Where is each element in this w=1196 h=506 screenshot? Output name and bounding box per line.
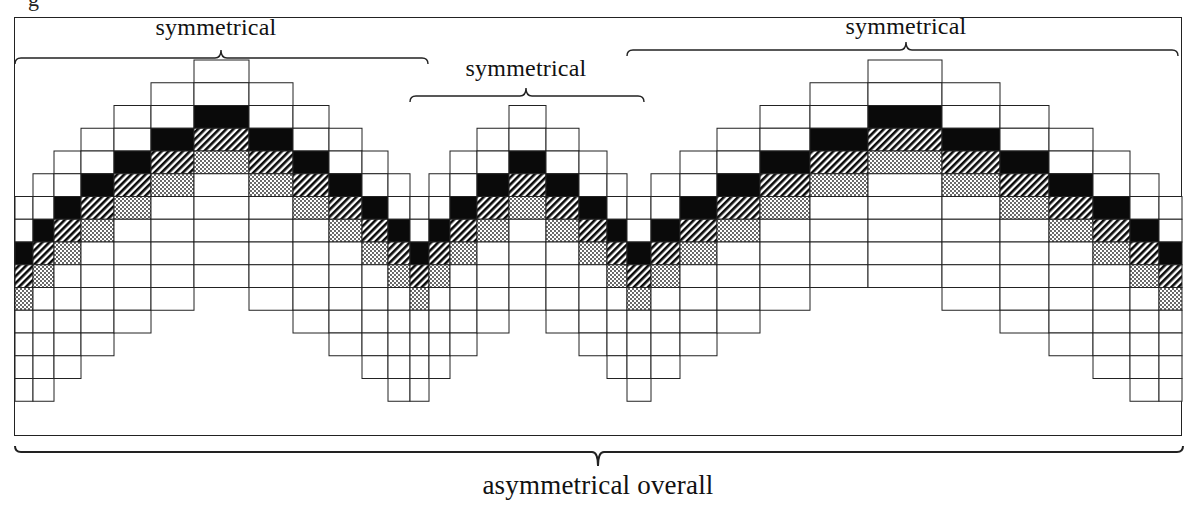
grid-cell-white [1093, 310, 1130, 333]
grid-cell-white [54, 151, 81, 174]
label-section-2: symmetrical [466, 55, 587, 82]
grid-cell-white [868, 83, 942, 106]
grid-cell-hatched [1130, 242, 1159, 265]
grid-cell-white [151, 265, 194, 288]
grid-cell-black [477, 174, 509, 197]
brace-section-3 [627, 42, 1178, 56]
grid-cell-white [114, 128, 151, 151]
grid-cell-white [868, 197, 942, 220]
grid-cell-black [450, 197, 477, 220]
grid-cell-dotted [1049, 219, 1093, 242]
grid-cell-white [760, 128, 810, 151]
grid-cell-white [293, 310, 329, 333]
grid-cell-white [546, 265, 579, 288]
grid-cell-dotted [627, 288, 651, 311]
grid-cell-white [579, 151, 607, 174]
grid-cell-white [81, 310, 114, 333]
grid-cell-black [868, 106, 942, 129]
grid-cell-white [194, 242, 249, 265]
grid-cell-white [1159, 356, 1182, 379]
grid-cell-white [194, 197, 249, 220]
grid-cell-white [546, 128, 579, 151]
grid-cell-hatched [1093, 219, 1130, 242]
grid-cell-white [54, 174, 81, 197]
grid-cell-white [810, 197, 868, 220]
grid-cell-black [1049, 174, 1093, 197]
grid-cell-black [388, 219, 410, 242]
grid-cell-white [810, 83, 868, 106]
grid-cell-white [717, 128, 760, 151]
grid-cell-dotted [114, 197, 151, 220]
grid-cell-white [1093, 288, 1130, 311]
grid-cell-hatched [114, 174, 151, 197]
grid-cell-white [329, 333, 362, 356]
grid-cell-white [429, 333, 450, 356]
grid-cell-white [607, 174, 627, 197]
grid-cell-white [868, 242, 942, 265]
label-section-1: symmetrical [156, 14, 277, 41]
grid-cell-white [293, 288, 329, 311]
grid-cell-black [607, 219, 627, 242]
grid-cell-white [760, 288, 810, 311]
grid-cell-hatched [362, 219, 388, 242]
grid-cell-white [450, 151, 477, 174]
grid-cell-black [362, 197, 388, 220]
grid-cell-hatched [450, 219, 477, 242]
grid-cell-hatched [1049, 197, 1093, 220]
grid-cell-white [607, 356, 627, 379]
grid-cell-dotted [651, 265, 680, 288]
grid-cell-dotted [194, 151, 249, 174]
grid-cell-white [1049, 333, 1093, 356]
grid-cell-white [760, 242, 810, 265]
grid-cell-dotted [868, 151, 942, 174]
grid-cell-dotted [509, 197, 546, 220]
grid-cell-dotted [1159, 288, 1182, 311]
grid-cell-white [450, 174, 477, 197]
grid-cell-hatched [477, 197, 509, 220]
grid-cell-white [1159, 379, 1182, 402]
brace-overall [15, 446, 1183, 466]
grid-cell-white [293, 219, 329, 242]
grid-cell-white [249, 288, 293, 311]
grid-cell-white [33, 288, 54, 311]
grid-cell-white [54, 333, 81, 356]
grid-cell-hatched [15, 265, 33, 288]
grid-cell-black [627, 242, 651, 265]
grid-cell-white [579, 333, 607, 356]
grid-cell-dotted [810, 174, 868, 197]
grid-cell-white [249, 219, 293, 242]
grid-cell-dotted [429, 265, 450, 288]
grid-cell-white [151, 242, 194, 265]
grid-cell-hatched [509, 174, 546, 197]
grid-cell-dotted [33, 265, 54, 288]
grid-cell-hatched [54, 219, 81, 242]
grid-cell-white [429, 288, 450, 311]
grid-cell-white [114, 310, 151, 333]
grid-cell-white [1130, 174, 1159, 197]
grid-cell-black [546, 174, 579, 197]
grid-cell-white [1000, 128, 1049, 151]
grid-cell-white [627, 197, 651, 220]
grid-cell-white [477, 265, 509, 288]
grid-cell-white [509, 288, 546, 311]
grid-cell-white [362, 151, 388, 174]
grid-cell-white [329, 265, 362, 288]
grid-cell-white [293, 128, 329, 151]
grid-cell-white [293, 265, 329, 288]
grid-cell-white [1093, 265, 1130, 288]
grid-cell-black [249, 128, 293, 151]
grid-cell-white [1049, 288, 1093, 311]
grid-cell-dotted [760, 197, 810, 220]
grid-cell-white [477, 128, 509, 151]
grid-cell-white [81, 288, 114, 311]
grid-cell-white [607, 333, 627, 356]
grid-cell-white [509, 106, 546, 129]
grid-cell-hatched [429, 242, 450, 265]
grid-cell-white [717, 151, 760, 174]
grid-cell-black [942, 128, 1000, 151]
grid-cell-black [680, 197, 717, 220]
grid-cell-dotted [717, 219, 760, 242]
grid-cell-white [15, 197, 33, 220]
grid-cell-dotted [388, 265, 410, 288]
grid-cell-white [1049, 151, 1093, 174]
